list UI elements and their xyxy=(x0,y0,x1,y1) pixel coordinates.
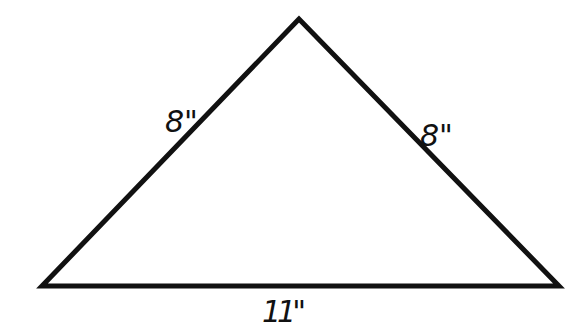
triangle xyxy=(42,19,559,286)
base-label: 11" xyxy=(262,294,303,329)
triangle-diagram: 8" 8" 11" xyxy=(0,0,586,331)
right-side-label: 8" xyxy=(420,118,453,153)
left-side-label: 8" xyxy=(165,104,198,139)
